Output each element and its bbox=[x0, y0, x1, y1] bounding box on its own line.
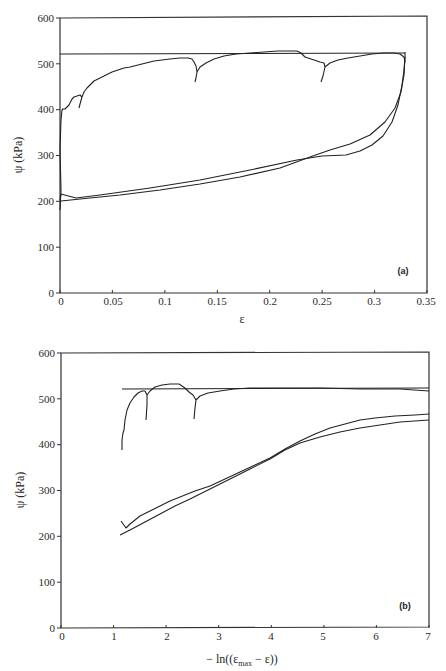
x-axis-title-b: − ln((εmax − ε)) bbox=[206, 652, 278, 668]
x-tick-label: 0.15 bbox=[207, 295, 227, 307]
x-axis-b: 0 1 2 3 4 5 6 7 − ln((εmax − ε)) bbox=[59, 625, 431, 668]
x-tick-label: 4 bbox=[268, 630, 274, 642]
y-tick-label: 200 bbox=[39, 530, 56, 542]
y-tick-label: 500 bbox=[38, 58, 55, 70]
x-tick-label: 5 bbox=[320, 630, 326, 642]
x-tick-label: 0.1 bbox=[158, 295, 172, 307]
y-tick-label: 0 bbox=[50, 622, 56, 634]
x-tick-label: 6 bbox=[373, 630, 379, 642]
y-axis-a: 0 100 200 300 400 500 600 ψ (kPa) bbox=[11, 12, 60, 299]
y-tick-label: 0 bbox=[49, 287, 55, 299]
panel-label-b: (b) bbox=[399, 601, 411, 611]
x-tick-label: 3 bbox=[216, 630, 222, 642]
y-tick-label: 300 bbox=[39, 484, 56, 496]
y-tick-label: 600 bbox=[39, 347, 56, 359]
plot-curves-b bbox=[120, 384, 429, 535]
figure: 0 100 200 300 400 500 600 ψ (kPa) 0 0.05… bbox=[0, 0, 446, 671]
panel-label-a: (a) bbox=[398, 266, 409, 276]
x-axis-a: 0 0.05 0.1 0.15 0.2 0.25 0.3 0.35 ε bbox=[58, 290, 436, 326]
y-tick-label: 100 bbox=[38, 241, 55, 253]
reference-line-a bbox=[60, 53, 405, 54]
y-tick-label: 400 bbox=[39, 438, 56, 450]
y-tick-label: 600 bbox=[38, 12, 55, 24]
x-tick-label: 0.05 bbox=[103, 295, 123, 307]
y-tick-label: 500 bbox=[39, 393, 56, 405]
y-tick-label: 200 bbox=[38, 195, 55, 207]
x-tick-label: 0 bbox=[58, 295, 64, 307]
y-axis-title-b: ψ (kPa) bbox=[13, 472, 27, 509]
y-axis-b: 0 100 200 300 400 500 600 ψ (kPa) bbox=[13, 347, 61, 634]
x-axis-title-a: ε bbox=[239, 312, 244, 326]
y-tick-label: 400 bbox=[38, 103, 55, 115]
x-tick-label: 0.35 bbox=[416, 295, 436, 307]
chart-panel-a: 0 100 200 300 400 500 600 ψ (kPa) 0 0.05… bbox=[11, 12, 436, 326]
x-tick-label: 0.2 bbox=[263, 295, 277, 307]
x-tick-label: 0 bbox=[59, 630, 65, 642]
loading-path-a bbox=[61, 51, 405, 120]
x-tick-label: 7 bbox=[425, 630, 431, 642]
lower-curve-b bbox=[120, 420, 429, 535]
x-tick-label: 2 bbox=[164, 630, 170, 642]
chart-panel-b: 0 100 200 300 400 500 600 ψ (kPa) 0 1 2 … bbox=[13, 347, 431, 668]
plot-curves-a bbox=[60, 51, 405, 210]
x-tick-label: 0.25 bbox=[312, 295, 332, 307]
plot-frame-a bbox=[60, 16, 427, 293]
y-tick-label: 100 bbox=[39, 576, 56, 588]
x-tick-label: 0.3 bbox=[367, 295, 381, 307]
initial-spike-a bbox=[60, 120, 61, 210]
plot-frame-b bbox=[61, 352, 429, 628]
lower-branch-a bbox=[61, 57, 405, 201]
upper-curve-b bbox=[121, 414, 429, 528]
x-tick-label: 1 bbox=[111, 630, 117, 642]
y-axis-title-a: ψ (kPa) bbox=[11, 137, 25, 174]
y-tick-label: 300 bbox=[38, 149, 55, 161]
